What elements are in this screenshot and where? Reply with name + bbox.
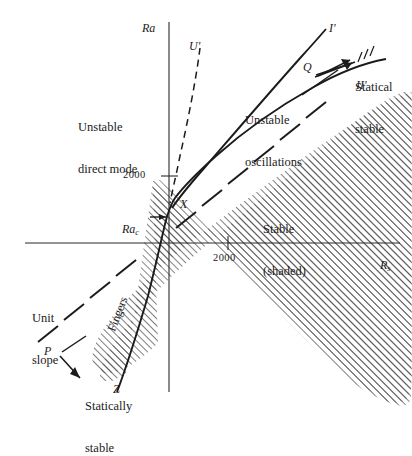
label-unit-slope: Unit slope [32, 283, 58, 381]
statical-stable-line2: stable [355, 122, 393, 136]
dashed-curve-U [170, 48, 200, 203]
curve-label-Z: Z [113, 383, 120, 396]
unstable-oscillations-line1: Unstable [245, 113, 302, 127]
curve-label-U-prime: U' [189, 40, 200, 53]
y-axis-label: Ra [142, 22, 155, 35]
unstable-direct-mode-line1: Unstable [78, 120, 137, 134]
region-label-stable-shaded: Stable (shaded) [263, 194, 306, 292]
label-intersection-X: X [180, 198, 187, 211]
region-label-unstable-direct-mode: Unstable direct mode [78, 92, 137, 190]
stable-line1: Stable [263, 222, 306, 236]
curve-label-II-prime: II' [356, 79, 367, 92]
region-label-unstable-oscillations: Unstable oscillations [245, 85, 302, 183]
curve-label-I-prime: I' [329, 22, 336, 35]
x-tick-label-2000: 2000 [213, 252, 236, 264]
label-critical-rayleigh: Rac [116, 210, 139, 238]
critical-rayleigh-subscript: c [135, 229, 139, 238]
critical-rayleigh-base: Ra [122, 222, 135, 236]
x-axis-label-subscript: s [387, 265, 390, 274]
pointer-label-P: P [44, 345, 51, 358]
p-pointer [60, 336, 86, 378]
unstable-oscillations-line2: oscillations [245, 155, 302, 169]
stable-line2: (shaded) [263, 264, 306, 278]
statically-stable-line1: Statically [85, 399, 132, 413]
unit-slope-line1: Unit [32, 311, 58, 325]
pointer-label-Q: Q [303, 61, 312, 74]
region-label-statical-stable: Statical stable [355, 52, 393, 150]
region-label-statically-stable: Statically stable [85, 371, 132, 456]
x-axis-label: Rs [374, 246, 391, 274]
unstable-direct-mode-line2: direct mode [78, 162, 137, 176]
statically-stable-line2: stable [85, 441, 132, 455]
